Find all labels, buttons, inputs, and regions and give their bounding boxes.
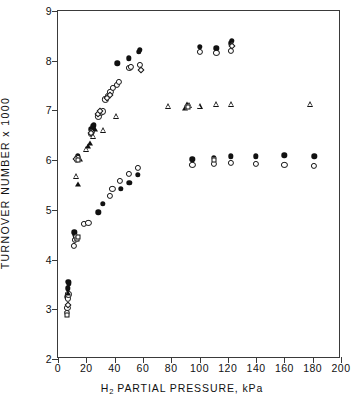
data-point-open-circle [228,160,234,166]
x-axis-tick-label: 100 [190,362,209,374]
data-point-filled-triangle [87,140,93,145]
data-point-open-circle [70,243,76,249]
x-axis-tick-label: 160 [275,362,294,374]
data-point-filled-circle [118,186,123,191]
x-axis-label-subscript: 2 [109,387,113,396]
data-point-filled-circle [127,180,132,185]
data-point-open-circle [116,79,122,85]
data-point-open-circle [107,193,113,199]
x-axis-tick-label: 80 [165,362,178,374]
y-axis-tick-label: 9 [46,5,52,17]
data-point-filled-circle [66,281,71,286]
x-axis-tick-label: 40 [108,362,121,374]
data-point-filled-circle [190,156,195,161]
y-axis-tick [52,11,58,12]
data-point-open-triangle [100,127,106,133]
y-axis-tick [52,210,58,211]
y-axis-tick [52,260,58,261]
x-axis-label: H2 PARTIAL PRESSURE, kPa [0,382,364,396]
y-axis-tick-label: 5 [46,204,52,216]
data-point-open-triangle [83,146,89,152]
data-point-open-circle [109,186,115,192]
y-axis-tick-label: 3 [46,303,52,315]
figure: TURNOVER NUMBER x 1000 23456789020406080… [0,0,364,406]
x-axis-tick-label: 180 [303,362,322,374]
y-axis-tick [52,61,58,62]
data-point-open-circle [126,171,132,177]
plot-area: 23456789020406080100120140160180200 [57,10,340,358]
data-point-open-circle [196,49,202,55]
y-axis-label: TURNOVER NUMBER x 1000 [0,97,11,270]
data-point-open-circle [85,220,91,226]
data-point-open-circle [135,165,141,171]
data-point-filled-circle [282,152,287,157]
data-point-filled-circle [100,201,105,206]
data-point-open-square [211,158,216,163]
data-point-filled-triangle [75,182,81,187]
data-point-open-triangle [113,113,119,119]
data-point-open-circle [311,163,317,169]
data-point-open-triangle [197,103,203,109]
data-point-open-square [75,234,80,239]
x-axis-tick-label: 60 [137,362,150,374]
data-point-open-triangle [228,101,234,107]
data-point-filled-circle [253,153,258,158]
x-axis-tick-label: 120 [218,362,237,374]
y-axis-tick-label: 6 [46,154,52,166]
data-point-filled-circle [96,210,101,215]
data-point-open-square [75,158,80,163]
data-point-filled-circle [135,172,140,177]
y-axis-tick [52,160,58,161]
data-point-filled-circle [228,153,233,158]
data-point-open-circle [253,161,259,167]
y-axis-tick-label: 8 [46,55,52,67]
x-axis-tick-label: 20 [80,362,93,374]
y-axis-tick-label: 7 [46,104,52,116]
data-point-filled-triangle [65,291,71,296]
data-point-open-square [186,105,191,110]
data-point-open-triangle [165,103,171,109]
data-point-open-square [65,313,70,318]
y-axis-tick [52,110,58,111]
data-point-open-triangle [73,173,79,179]
data-point-open-circle [117,178,123,184]
data-point-filled-circle [115,60,120,65]
y-axis-tick-label: 2 [46,353,52,365]
data-point-open-triangle [213,101,219,107]
data-point-open-triangle [307,101,313,107]
y-axis-tick [52,309,58,310]
x-axis-tick-label: 200 [331,362,350,374]
data-point-filled-circle [311,153,316,158]
data-point-open-circle [128,64,134,70]
data-point-filled-circle [126,56,131,61]
data-point-filled-circle [137,47,142,52]
data-point-open-circle [189,162,195,168]
x-axis-tick-label: 0 [55,362,61,374]
x-axis-tick-label: 140 [247,362,266,374]
y-axis-tick-label: 4 [46,254,52,266]
data-point-open-circle [281,162,287,168]
data-point-open-circle [213,50,219,56]
